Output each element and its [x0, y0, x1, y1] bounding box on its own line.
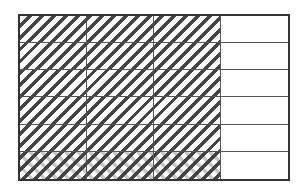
hatched-cell	[87, 70, 154, 97]
hatched-cell	[20, 16, 87, 43]
empty-cell	[221, 152, 288, 179]
hatched-cell	[154, 70, 221, 97]
hatched-cell	[154, 43, 221, 70]
empty-cell	[221, 16, 288, 43]
hatched-cell	[20, 125, 87, 152]
hatched-cell	[87, 16, 154, 43]
cross-hatched-cell	[154, 152, 221, 179]
hatched-cell	[154, 125, 221, 152]
hatched-cell	[20, 43, 87, 70]
empty-cell	[221, 97, 288, 124]
hatched-cell	[87, 125, 154, 152]
cross-hatched-cell	[87, 152, 154, 179]
empty-cell	[221, 70, 288, 97]
empty-cell	[221, 43, 288, 70]
area-model-grid	[18, 14, 290, 181]
hatched-cell	[154, 97, 221, 124]
hatched-cell	[87, 43, 154, 70]
empty-cell	[221, 125, 288, 152]
hatched-cell	[20, 70, 87, 97]
hatched-cell	[20, 97, 87, 124]
hatched-cell	[87, 97, 154, 124]
hatched-cell	[154, 16, 221, 43]
cross-hatched-cell	[20, 152, 87, 179]
